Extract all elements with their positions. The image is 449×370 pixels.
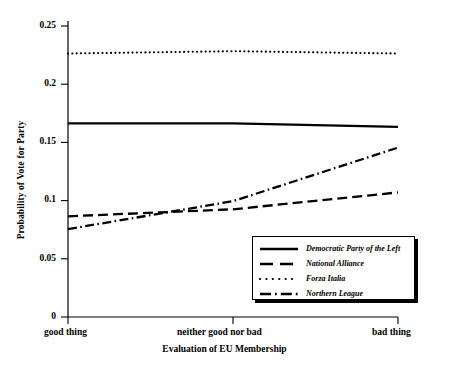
legend-item-northern-league: Northern League bbox=[259, 287, 410, 301]
y-tick-label-0.1: 0.1 bbox=[8, 194, 56, 204]
y-tick-label-0.25: 0.25 bbox=[8, 20, 56, 30]
chart-figure: Probability of Vote for Party 0.25 0.2 0… bbox=[0, 0, 449, 370]
legend-label: National Alliance bbox=[306, 260, 364, 268]
legend-label: Northern League bbox=[306, 290, 363, 298]
y-axis-title: Probability of Vote for Party bbox=[10, 80, 32, 280]
y-tick-label-0.15: 0.15 bbox=[8, 136, 56, 146]
x-tick-label-good-thing: good thing bbox=[44, 327, 87, 337]
x-tick-label-neither-good-nor-bad: neither good nor bad bbox=[177, 327, 262, 337]
legend-items: Democratic Party of the Left National Al… bbox=[253, 237, 414, 299]
legend-sample-dashed-icon bbox=[259, 259, 299, 269]
y-tick-label-0.05: 0.05 bbox=[8, 253, 56, 263]
legend-label: Democratic Party of the Left bbox=[306, 245, 400, 253]
y-tick-marks bbox=[61, 26, 68, 317]
x-axis-title: Evaluation of EU Membership bbox=[0, 344, 449, 354]
legend-label: Forza Italia bbox=[306, 275, 345, 283]
legend-sample-dotted-icon bbox=[259, 274, 299, 284]
chart-plot-area bbox=[0, 0, 449, 370]
x-tick-marks bbox=[68, 317, 398, 324]
x-tick-label-bad-thing: bad thing bbox=[372, 327, 411, 337]
series-line-democratic-party-of-the-left bbox=[68, 123, 398, 127]
series-line-forza-italia bbox=[68, 51, 398, 53]
y-tick-label-0.2: 0.2 bbox=[8, 78, 56, 88]
chart-legend: Democratic Party of the Left National Al… bbox=[252, 236, 415, 300]
legend-sample-solid-icon bbox=[259, 244, 299, 254]
y-tick-label-0: 0 bbox=[8, 311, 56, 321]
series-line-national-alliance bbox=[68, 192, 398, 216]
legend-item-national-alliance: National Alliance bbox=[259, 257, 410, 271]
series-line-northern-league bbox=[68, 148, 398, 230]
legend-item-democratic-party-of-the-left: Democratic Party of the Left bbox=[259, 242, 410, 256]
legend-sample-dashdot-icon bbox=[259, 289, 299, 299]
legend-item-forza-italia: Forza Italia bbox=[259, 272, 410, 286]
